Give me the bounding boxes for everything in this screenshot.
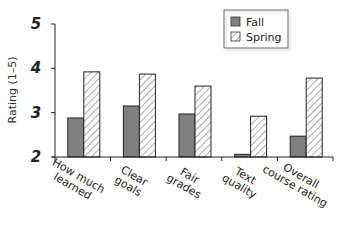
- y-tick-label: 5: [31, 15, 41, 33]
- bar-fall: [68, 118, 84, 157]
- bar-chart: Rating (1–5) 2345 How muchlearnedCleargo…: [0, 0, 351, 236]
- bar-fall: [290, 136, 306, 157]
- bar-fall: [123, 106, 139, 157]
- category-label: Fairgrades: [164, 161, 209, 202]
- category-label: Overallcourse rating: [260, 152, 336, 210]
- y-axis-label: Rating (1–5): [6, 56, 19, 123]
- category-labels: How muchlearnedCleargoalsFairgradesTextq…: [44, 152, 336, 210]
- bar-spring: [251, 116, 267, 157]
- legend-swatch-fall: [231, 17, 240, 26]
- legend-label-fall: Fall: [246, 16, 264, 29]
- x-axis: [52, 157, 333, 161]
- y-tick-label: 2: [31, 148, 41, 166]
- legend-label-spring: Spring: [246, 31, 282, 44]
- y-tick-label: 4: [30, 59, 41, 77]
- bars: [68, 72, 322, 157]
- legend: Fall Spring: [224, 10, 290, 50]
- y-tick-label: 3: [31, 104, 41, 122]
- bar-fall: [179, 114, 195, 157]
- bar-spring: [84, 72, 100, 157]
- category-label: How muchlearned: [44, 156, 107, 207]
- bar-spring: [195, 86, 211, 157]
- category-label: Cleargoals: [112, 163, 150, 199]
- category-label: Textquality: [220, 161, 266, 202]
- y-axis: 2345: [30, 15, 55, 166]
- bar-spring: [306, 78, 322, 157]
- bar-spring: [139, 74, 155, 157]
- legend-swatch-spring: [231, 32, 240, 41]
